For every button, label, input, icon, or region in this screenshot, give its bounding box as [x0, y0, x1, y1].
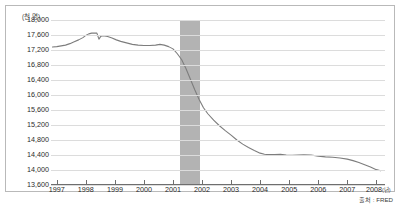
- x-axis-tick: [115, 180, 116, 184]
- y-axis-tick-label: 16,800: [27, 61, 49, 68]
- x-axis-tick-label: 2008(년): [366, 186, 391, 194]
- x-axis-tick: [144, 180, 145, 184]
- x-axis-tick-label: 2006: [310, 186, 326, 193]
- employment-line-chart: (천 명) 13,60014,00014,40014,80015,20015,6…: [0, 0, 401, 212]
- gridline: [51, 170, 385, 171]
- plot-area: [51, 20, 385, 185]
- gridline: [51, 50, 385, 51]
- x-axis-tick-label: 1997: [49, 186, 65, 193]
- gridline: [51, 140, 385, 141]
- y-axis-tick-label: 14,400: [27, 151, 49, 158]
- x-axis-year-unit: (년): [382, 187, 391, 193]
- y-axis-tick-label: 18,000: [27, 16, 49, 23]
- x-axis-tick-label: 1998: [78, 186, 94, 193]
- y-axis-tick-label: 16,400: [27, 76, 49, 83]
- y-axis-tick-label: 14,000: [27, 166, 49, 173]
- gridline: [51, 65, 385, 66]
- gridline: [51, 35, 385, 36]
- x-axis-tick-label: 2002: [194, 186, 210, 193]
- x-axis-tick: [376, 180, 377, 184]
- x-axis-tick: [86, 180, 87, 184]
- y-axis-tick-label: 17,600: [27, 31, 49, 38]
- x-axis-tick-label: 1999: [107, 186, 123, 193]
- source-note: 출처 : FRED: [359, 195, 393, 204]
- series-line-employment: [51, 20, 385, 185]
- gridline: [51, 185, 385, 186]
- x-axis-tick: [173, 180, 174, 184]
- gridline: [51, 110, 385, 111]
- y-axis-tick-label: 17,200: [27, 46, 49, 53]
- gridline: [51, 155, 385, 156]
- x-axis-tick: [231, 180, 232, 184]
- x-axis-tick: [202, 180, 203, 184]
- y-axis-tick-label: 16,000: [27, 91, 49, 98]
- x-axis-tick-label: 2003: [223, 186, 239, 193]
- x-axis-tick-label: 2007: [339, 186, 355, 193]
- x-axis-line: [51, 184, 385, 185]
- gridline: [51, 125, 385, 126]
- x-axis-tick: [347, 180, 348, 184]
- y-axis-tick-label: 13,600: [27, 181, 49, 188]
- gridline: [51, 20, 385, 21]
- x-axis-tick: [318, 180, 319, 184]
- x-axis-tick: [289, 180, 290, 184]
- y-axis-tick-label: 15,600: [27, 106, 49, 113]
- x-axis-tick-label: 2005: [281, 186, 297, 193]
- y-axis-tick-label: 14,800: [27, 136, 49, 143]
- x-axis-tick-label: 2001: [165, 186, 181, 193]
- gridline: [51, 80, 385, 81]
- y-axis-tick-labels: 13,60014,00014,40014,80015,20015,60016,0…: [12, 20, 49, 185]
- x-axis-tick: [260, 180, 261, 184]
- y-axis-tick-label: 15,200: [27, 121, 49, 128]
- gridline: [51, 95, 385, 96]
- x-axis-tick-label: 2004: [252, 186, 268, 193]
- x-axis-tick: [57, 180, 58, 184]
- x-axis-tick-label: 2000: [136, 186, 152, 193]
